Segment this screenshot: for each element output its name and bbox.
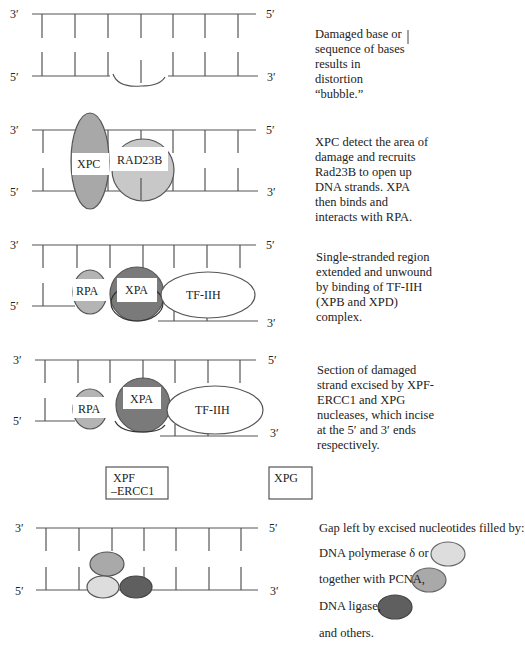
end-label: 5′ xyxy=(268,353,277,367)
end-label: 5′ xyxy=(10,185,19,199)
label-rpa: RPA xyxy=(78,402,101,416)
end-label: 3′ xyxy=(270,426,279,440)
legend-ligase: DNA ligase, xyxy=(319,599,381,614)
step-description-damage: Damaged base or sequence of bases result… xyxy=(315,27,410,102)
bottom-rungs xyxy=(42,52,238,83)
distortion-bubble xyxy=(113,74,165,86)
pol-delta-protein xyxy=(87,576,119,598)
end-label: 3′ xyxy=(267,185,276,199)
label-xpa: XPA xyxy=(125,283,148,297)
label-xpf: XPF xyxy=(113,471,135,485)
end-label: 3′ xyxy=(13,353,22,367)
step-description-unwinding: Single-stranded region extended and unwo… xyxy=(316,250,441,325)
label-tfiih: TF-IIH xyxy=(195,403,230,417)
label-rad23b: RAD23B xyxy=(117,153,162,167)
end-label: 3′ xyxy=(15,521,24,535)
legend-others: and others. xyxy=(319,626,374,641)
step-description-recognition: XPC detect the area of damage and recrui… xyxy=(315,135,430,225)
top-rungs xyxy=(42,14,238,38)
end-label: 3′ xyxy=(10,7,19,21)
legend-ligase-swatch xyxy=(378,595,412,619)
label-xpc: XPC xyxy=(77,157,100,171)
panel-damage xyxy=(32,14,258,86)
end-label: 5′ xyxy=(10,299,19,313)
end-label: 3′ xyxy=(10,123,19,137)
label-xpg: XPG xyxy=(274,471,298,485)
end-label: 5′ xyxy=(266,238,275,252)
panel-gap-filling xyxy=(36,528,258,598)
end-label: 5′ xyxy=(10,70,19,84)
ligase-protein xyxy=(120,576,152,598)
label-xpa: XPA xyxy=(130,392,153,406)
legend-pol-delta-swatch xyxy=(431,542,465,566)
end-label: 5′ xyxy=(266,7,275,21)
end-label: 3′ xyxy=(10,238,19,252)
label-tfiih: TF-IIH xyxy=(186,288,221,302)
end-label: 5′ xyxy=(269,521,278,535)
label-ercc1: –ERCC1 xyxy=(110,484,154,498)
gap-filling-caption: Gap left by excised nucleotides filled b… xyxy=(319,521,525,536)
pcna-protein xyxy=(90,552,124,576)
end-label: 3′ xyxy=(267,70,276,84)
legend-pcna: together with PCNA, xyxy=(319,572,425,587)
legend-pol-delta: DNA polymerase δ or xyxy=(319,546,429,561)
end-label: 3′ xyxy=(270,584,279,598)
end-label: 3′ xyxy=(267,316,276,330)
end-label: 5′ xyxy=(15,584,24,598)
end-label: 5′ xyxy=(266,123,275,137)
step-description-excision: Section of damaged strand excised by XPF… xyxy=(317,363,442,453)
end-label: 5′ xyxy=(13,414,22,428)
label-rpa: RPA xyxy=(76,284,99,298)
